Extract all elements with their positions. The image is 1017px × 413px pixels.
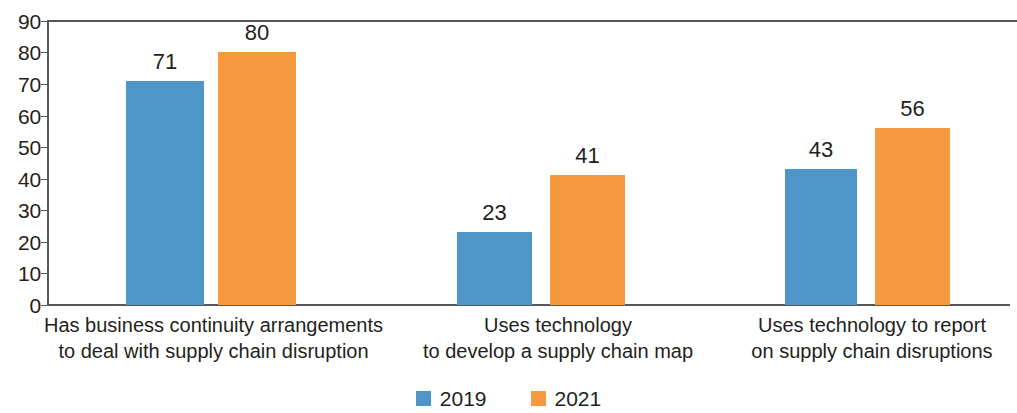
x-axis-category-labels: Has business continuity arrangements to … bbox=[0, 312, 1017, 370]
legend: 2019 2021 bbox=[0, 383, 1017, 413]
y-tick-label-10: 10 bbox=[3, 263, 41, 284]
bar-2019-report-disruptions[interactable] bbox=[785, 169, 857, 305]
y-tick-label-40: 40 bbox=[3, 169, 41, 190]
category-label-has-business-continuity: Has business continuity arrangements to … bbox=[26, 312, 401, 364]
bar-2021-has-business-continuity[interactable] bbox=[218, 52, 296, 305]
category-label-line-1: Has business continuity arrangements bbox=[26, 312, 401, 338]
bar-value-2019-group3: 43 bbox=[785, 139, 857, 161]
y-tick-label-60: 60 bbox=[3, 106, 41, 127]
y-tick-label-30: 30 bbox=[3, 200, 41, 221]
bars-layer: 71 80 23 41 43 56 bbox=[47, 21, 1010, 305]
legend-item-2021[interactable]: 2021 bbox=[531, 388, 602, 409]
category-label-supply-chain-map: Uses technology to develop a supply chai… bbox=[398, 312, 718, 364]
category-label-line-2: to develop a supply chain map bbox=[398, 338, 718, 364]
legend-label-2021: 2021 bbox=[555, 388, 602, 409]
legend-item-2019[interactable]: 2019 bbox=[416, 388, 487, 409]
category-label-line-1: Uses technology to report bbox=[727, 312, 1017, 338]
bar-2021-supply-chain-map[interactable] bbox=[550, 175, 625, 305]
plot-area: 71 80 23 41 43 56 bbox=[47, 21, 1010, 305]
y-tick-label-50: 50 bbox=[3, 137, 41, 158]
square-swatch-icon bbox=[531, 391, 546, 406]
bar-2019-has-business-continuity[interactable] bbox=[126, 81, 204, 305]
y-tick-label-80: 80 bbox=[3, 42, 41, 63]
y-tick-label-70: 70 bbox=[3, 74, 41, 95]
bar-value-2021-group2: 41 bbox=[550, 145, 625, 167]
bar-value-2021-group1: 80 bbox=[218, 22, 296, 44]
y-tick-label-90: 90 bbox=[3, 11, 41, 32]
bar-value-2019-group1: 71 bbox=[126, 51, 204, 73]
bar-value-2021-group3: 56 bbox=[875, 98, 950, 120]
bar-2021-report-disruptions[interactable] bbox=[875, 128, 950, 305]
bar-2019-supply-chain-map[interactable] bbox=[457, 232, 532, 305]
square-swatch-icon bbox=[416, 391, 431, 406]
category-label-line-1: Uses technology bbox=[398, 312, 718, 338]
category-label-line-2: on supply chain disruptions bbox=[727, 338, 1017, 364]
bar-chart: 90 80 70 60 50 40 30 20 10 0 bbox=[0, 0, 1017, 413]
category-label-report-disruptions: Uses technology to report on supply chai… bbox=[727, 312, 1017, 364]
legend-label-2019: 2019 bbox=[440, 388, 487, 409]
y-tick-label-20: 20 bbox=[3, 232, 41, 253]
bar-value-2019-group2: 23 bbox=[457, 202, 532, 224]
category-label-line-2: to deal with supply chain disruption bbox=[26, 338, 401, 364]
